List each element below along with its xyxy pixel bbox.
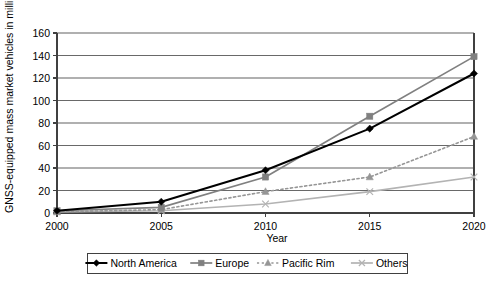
legend-marker-triangle-icon bbox=[265, 259, 272, 265]
y-axis-tick-labels: 020406080100120140160 bbox=[32, 27, 50, 219]
x-axis-tick-labels: 20002005201020152020 bbox=[45, 220, 486, 232]
legend-item-label: Europe bbox=[215, 257, 249, 269]
y-tick-label: 120 bbox=[32, 72, 50, 84]
chart-legend: North AmericaEuropePacific RimOthers bbox=[85, 253, 407, 273]
x-axis-title: Year bbox=[266, 232, 288, 244]
legend-item-label: North America bbox=[110, 257, 177, 269]
y-tick-label: 80 bbox=[38, 117, 50, 129]
line-chart: GNSS-equipped mass market vehicles in mi… bbox=[0, 0, 496, 281]
x-tick-label: 2015 bbox=[358, 220, 382, 232]
x-tick-label: 2005 bbox=[150, 220, 174, 232]
legend-item-north-america[interactable]: North America bbox=[85, 257, 177, 269]
legend-item-europe[interactable]: Europe bbox=[190, 257, 249, 269]
y-tick-label: 140 bbox=[32, 50, 50, 62]
legend-marker-square-icon bbox=[198, 260, 204, 266]
legend-item-label: Pacific Rim bbox=[282, 257, 335, 269]
y-axis-title: GNSS-equipped mass market vehicles in mi… bbox=[3, 0, 15, 213]
x-tick-label: 2010 bbox=[254, 220, 278, 232]
legend-marker-diamond-icon bbox=[93, 260, 100, 267]
x-axis-ticks bbox=[57, 213, 474, 217]
legend-item-label: Others bbox=[376, 257, 408, 269]
legend-item-others[interactable]: Others bbox=[351, 257, 408, 269]
x-tick-label: 2020 bbox=[462, 220, 486, 232]
y-tick-label: 60 bbox=[38, 140, 50, 152]
y-tick-label: 0 bbox=[44, 207, 50, 219]
y-axis-ticks bbox=[53, 33, 57, 213]
y-tick-label: 20 bbox=[38, 185, 50, 197]
legend-item-pacific-rim[interactable]: Pacific Rim bbox=[257, 257, 335, 269]
x-tick-label: 2000 bbox=[45, 220, 69, 232]
y-tick-label: 40 bbox=[38, 162, 50, 174]
y-tick-label: 160 bbox=[32, 27, 50, 39]
y-tick-label: 100 bbox=[32, 95, 50, 107]
chart-container: GNSS-equipped mass market vehicles in mi… bbox=[0, 0, 496, 281]
